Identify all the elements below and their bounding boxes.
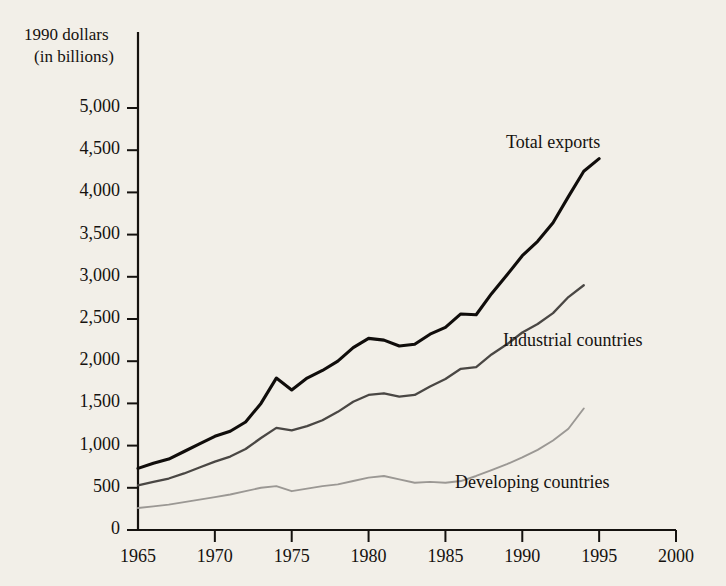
x-axis-tick-label: 2000: [636, 546, 716, 567]
y-axis-ticks: [127, 108, 138, 530]
x-axis-tick-label: 1980: [329, 546, 409, 567]
x-axis-tick-label: 1985: [405, 546, 485, 567]
y-axis-tick-label: 4,500: [28, 138, 120, 159]
x-axis-tick-label: 1990: [482, 546, 562, 567]
y-axis-tick-label: 5,000: [28, 96, 120, 117]
series-line-total-exports: [138, 159, 599, 469]
y-axis-tick-label: 500: [28, 476, 120, 497]
axis-lines: [138, 32, 676, 530]
plot-area: [0, 0, 726, 586]
x-axis-tick-label: 1970: [175, 546, 255, 567]
series-label-industrial-countries: Industrial countries: [503, 330, 642, 351]
y-axis-tick-label: 3,000: [28, 265, 120, 286]
y-axis-tick-label: 2,000: [28, 349, 120, 370]
chart-figure: 1990 dollars (in billions) 05001,0001,50…: [0, 0, 726, 586]
y-axis-tick-label: 3,500: [28, 223, 120, 244]
x-axis-tick-label: 1995: [559, 546, 639, 567]
y-axis-tick-label: 2,500: [28, 307, 120, 328]
series-label-total-exports: Total exports: [506, 132, 600, 153]
series-line-industrial-countries: [138, 285, 584, 485]
y-axis-tick-label: 4,000: [28, 180, 120, 201]
y-axis-tick-label: 0: [28, 518, 120, 539]
y-axis-tick-label: 1,000: [28, 434, 120, 455]
y-axis-tick-label: 1,500: [28, 391, 120, 412]
x-axis-tick-label: 1965: [98, 546, 178, 567]
series-label-developing-countries: Developing countries: [455, 472, 609, 493]
x-axis-tick-label: 1975: [252, 546, 332, 567]
x-axis-ticks: [215, 530, 676, 542]
series-line-developing-countries: [138, 408, 584, 508]
